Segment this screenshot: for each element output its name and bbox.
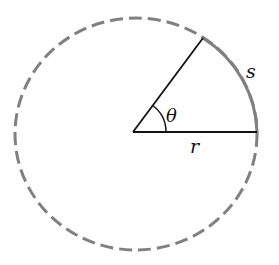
angle-arc: [153, 106, 166, 133]
theta-label: θ: [166, 105, 177, 126]
arc-s: [203, 38, 257, 132]
circle-sector-diagram: θ r s: [0, 0, 279, 265]
arc-label: s: [246, 60, 256, 82]
radius-label: r: [190, 135, 201, 157]
